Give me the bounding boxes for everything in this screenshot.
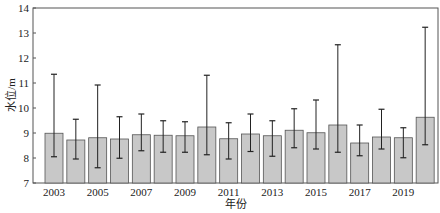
y-tick-label: 13 xyxy=(18,27,30,39)
y-tick-label: 7 xyxy=(24,177,30,189)
x-tick-label: 2015 xyxy=(305,186,328,198)
bar-chart: 7891011121314 20032005200720092011201320… xyxy=(0,0,440,213)
x-axis-title: 年份 xyxy=(225,197,247,210)
error-bars xyxy=(51,27,428,168)
y-axis-title: 水位/m xyxy=(4,78,17,112)
x-tick-label: 2011 xyxy=(218,186,240,198)
x-tick-label: 2019 xyxy=(392,186,415,198)
y-tick-label: 10 xyxy=(18,102,30,114)
x-tick-label: 2017 xyxy=(349,186,372,198)
x-tick-label: 2005 xyxy=(87,186,110,198)
bars xyxy=(45,117,434,183)
x-tick-label: 2009 xyxy=(174,186,197,198)
x-tick-label: 2007 xyxy=(130,186,153,198)
y-tick-label: 11 xyxy=(18,77,29,89)
y-tick-label: 14 xyxy=(18,2,30,14)
x-tick-label: 2003 xyxy=(43,186,66,198)
y-tick-label: 12 xyxy=(18,52,29,64)
y-tick-label: 8 xyxy=(24,152,30,164)
x-axis: 200320052007200920112013201520172019 xyxy=(43,186,415,198)
x-tick-label: 2013 xyxy=(261,186,284,198)
y-tick-label: 9 xyxy=(24,127,30,139)
